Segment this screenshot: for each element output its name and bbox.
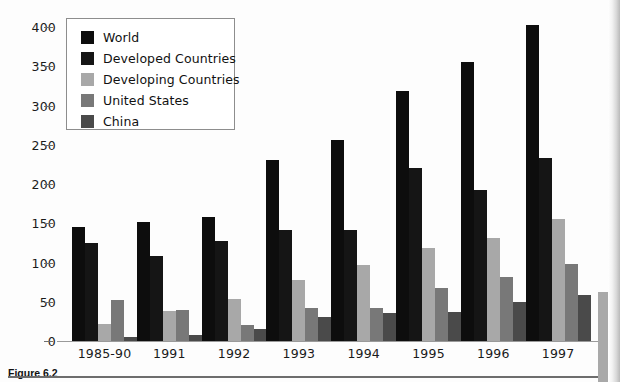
bar (228, 299, 241, 341)
bar (565, 264, 578, 341)
bar (357, 265, 370, 341)
caption-divider (8, 376, 600, 378)
legend-swatch-icon (81, 115, 94, 128)
bar (552, 219, 565, 341)
x-tick-label: 1997 (518, 346, 598, 361)
figure-container: 050100150200250300350400 1985-9019911992… (0, 0, 620, 382)
legend-item-label: United States (103, 93, 189, 108)
bar (111, 300, 124, 341)
legend-swatch-icon (81, 31, 94, 44)
y-tick-mark (44, 106, 53, 107)
bar (292, 280, 305, 341)
bar (500, 277, 513, 341)
bar (474, 190, 487, 342)
bar (383, 313, 396, 341)
y-tick-mark (44, 341, 53, 342)
bar (150, 256, 163, 341)
bar (331, 140, 344, 341)
bar (370, 308, 383, 341)
bar (448, 312, 461, 341)
bar (305, 308, 318, 341)
y-tick-mark (44, 145, 53, 146)
legend-item: China (81, 114, 139, 128)
legend-item: Developing Countries (81, 72, 240, 86)
bar (435, 288, 448, 341)
bar (461, 62, 474, 341)
bar (72, 227, 85, 341)
bar (526, 25, 539, 341)
page-scan-edge-block (598, 292, 608, 382)
legend-item: Developed Countries (81, 51, 236, 65)
y-tick-mark (44, 27, 53, 28)
y-tick-mark (44, 302, 53, 303)
bar (176, 310, 189, 341)
bar (202, 217, 215, 341)
chart-legend: WorldDeveloped CountriesDeveloping Count… (66, 18, 235, 130)
y-tick-mark (44, 184, 53, 185)
bar (189, 335, 202, 341)
bar (241, 325, 254, 341)
y-tick-mark (44, 66, 53, 67)
bar (254, 329, 267, 341)
legend-item: World (81, 30, 139, 44)
page-scan-edge (608, 0, 620, 382)
bar (163, 311, 176, 341)
legend-item: United States (81, 93, 189, 107)
bar (279, 230, 292, 341)
bar (98, 324, 111, 341)
bar (344, 230, 357, 341)
legend-item-label: Developing Countries (103, 72, 240, 87)
legend-item-label: China (103, 114, 139, 129)
figure-caption: Figure 6.2 (8, 362, 608, 381)
bar (318, 317, 331, 341)
legend-swatch-icon (81, 52, 94, 65)
bar (513, 302, 526, 341)
legend-swatch-icon (81, 73, 94, 86)
bar (215, 241, 228, 341)
bar (487, 238, 500, 341)
bar (422, 248, 435, 341)
bar (124, 337, 137, 341)
y-tick-mark (44, 223, 53, 224)
bar (409, 168, 422, 341)
legend-swatch-icon (81, 94, 94, 107)
bar (539, 158, 552, 341)
bar (396, 91, 409, 341)
bar (266, 160, 279, 341)
legend-item-label: Developed Countries (103, 51, 236, 66)
x-axis-baseline (57, 341, 613, 342)
legend-item-label: World (103, 30, 139, 45)
bar (578, 295, 591, 341)
bar (85, 243, 98, 341)
y-tick-mark (44, 263, 53, 264)
bar (137, 222, 150, 341)
